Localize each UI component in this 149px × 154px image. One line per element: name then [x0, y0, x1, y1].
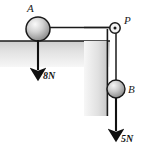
label-ball-a: A [26, 2, 34, 14]
vertical-support [84, 29, 108, 116]
label-pulley-p: P [123, 14, 131, 26]
label-force-5n: 5N [121, 133, 134, 144]
physics-diagram: A P B 8N 5N [0, 0, 149, 154]
pulley-system-figure: A P B 8N 5N [0, 0, 149, 154]
label-force-8n: 8N [43, 70, 56, 81]
ball-b [107, 80, 125, 98]
pulley-p [110, 23, 120, 33]
label-ball-b: B [128, 83, 135, 95]
ball-a [26, 17, 50, 41]
